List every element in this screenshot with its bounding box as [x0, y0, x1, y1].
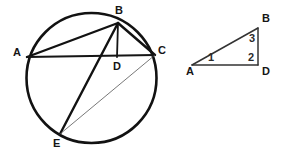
circle-diagram: A B C D E — [13, 4, 166, 149]
figure-canvas: A B C D E A B D 1 2 3 — [0, 0, 282, 160]
vertex-label-b: B — [115, 4, 123, 16]
triangle-vertex-label-a: A — [186, 65, 194, 77]
vertex-label-d: D — [113, 60, 121, 72]
segment-bc — [118, 23, 155, 55]
triangle-vertex-label-d: D — [262, 65, 270, 77]
vertex-label-c: C — [158, 44, 166, 56]
segment-ab — [27, 23, 118, 57]
vertex-label-e: E — [53, 137, 60, 149]
angle-label-3: 3 — [249, 32, 255, 44]
segment-bd — [117, 23, 118, 57]
angle-label-2: 2 — [248, 51, 254, 63]
segment-ac — [27, 55, 155, 57]
segment-be — [60, 23, 118, 134]
triangle-vertex-label-b: B — [262, 12, 270, 24]
vertex-label-a: A — [13, 46, 21, 58]
geometry-figure: A B C D E A B D 1 2 3 — [0, 0, 282, 160]
triangle-diagram: A B D 1 2 3 — [186, 12, 270, 77]
angle-label-1: 1 — [208, 51, 214, 63]
